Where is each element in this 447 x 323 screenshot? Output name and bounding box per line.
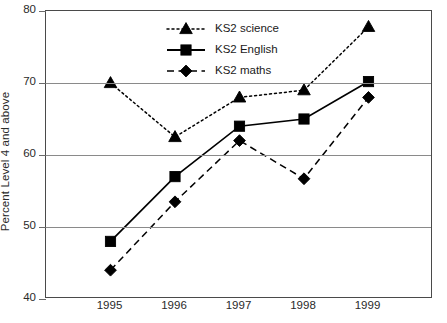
- chart-legend: KS2 scienceKS2 EnglishKS2 maths: [166, 18, 316, 81]
- gridline: [46, 83, 431, 84]
- data-point-marker: [298, 173, 310, 185]
- y-axis-tick-labels: 4050607080: [0, 10, 45, 298]
- series-ks2-english: [105, 76, 373, 246]
- legend-item: KS2 English: [166, 39, 316, 60]
- y-axis-tick-label: 50: [23, 220, 36, 232]
- data-point-marker: [363, 92, 375, 104]
- x-axis-tick-label: 1995: [97, 300, 123, 312]
- data-point-marker: [169, 196, 181, 208]
- y-axis-tick: [39, 155, 46, 156]
- x-axis-tick-label: 1999: [355, 300, 381, 312]
- data-point-marker: [299, 114, 309, 124]
- x-axis-tick-label: 1997: [226, 300, 252, 312]
- series-ks2-maths: [105, 92, 375, 277]
- y-axis-tick-label: 40: [23, 292, 36, 304]
- y-axis-tick-label: 70: [23, 76, 36, 88]
- legend-swatch-square-icon: [166, 42, 206, 58]
- data-point-marker: [233, 91, 246, 102]
- legend-label: KS2 English: [215, 44, 278, 56]
- y-axis-tick: [39, 11, 46, 12]
- legend-label: KS2 science: [215, 23, 279, 35]
- gridline: [46, 227, 431, 228]
- series-line: [111, 97, 369, 270]
- x-axis-tick-label: 1998: [290, 300, 316, 312]
- data-point-marker: [170, 172, 180, 182]
- data-point-marker: [363, 76, 373, 86]
- data-point-marker: [105, 236, 115, 246]
- x-axis-tick-label: 1996: [161, 300, 187, 312]
- series-line: [111, 82, 369, 242]
- legend-swatch-triangle-icon: [166, 21, 206, 37]
- y-axis-tick-label: 60: [23, 148, 36, 160]
- data-point-marker: [234, 135, 246, 147]
- y-axis-tick: [39, 83, 46, 84]
- x-axis-tick-labels: 19951996199719981999: [45, 300, 432, 318]
- legend-item: KS2 maths: [166, 60, 316, 81]
- gridline: [46, 155, 431, 156]
- data-point-marker: [298, 84, 311, 95]
- y-axis-tick: [39, 227, 46, 228]
- data-point-marker: [362, 20, 375, 31]
- legend-item: KS2 science: [166, 18, 316, 39]
- y-axis-tick-label: 80: [23, 4, 36, 16]
- legend-swatch-diamond-icon: [166, 63, 206, 79]
- data-point-marker: [234, 121, 244, 131]
- legend-label: KS2 maths: [215, 65, 271, 77]
- line-chart: Percent Level 4 and above 4050607080 199…: [0, 0, 447, 323]
- data-point-marker: [169, 131, 182, 142]
- data-point-marker: [105, 264, 117, 276]
